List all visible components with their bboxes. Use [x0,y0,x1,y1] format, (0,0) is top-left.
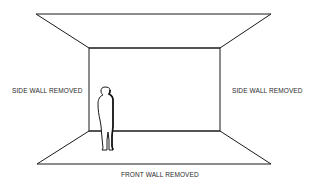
side-wall-removed-label-right: SIDE WALL REMOVED [232,87,303,95]
room-diagram: SIDE WALL REMOVED SIDE WALL REMOVED FRON… [0,0,311,185]
side-wall-removed-label-left: SIDE WALL REMOVED [12,87,83,95]
ceiling-plane [36,14,271,48]
human-figure [98,87,113,150]
front-wall-removed-label: FRONT WALL REMOVED [121,171,199,179]
floor-plane [37,131,271,164]
